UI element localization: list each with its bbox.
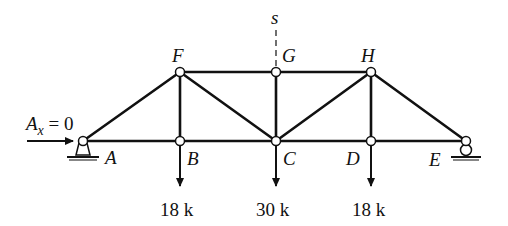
truss-joints: [79, 68, 471, 146]
member-A-F: [83, 72, 180, 141]
node-label-F: F: [171, 45, 184, 66]
joint-A: [79, 137, 88, 146]
node-label-C: C: [283, 148, 296, 169]
load-label-B: 18 k: [160, 199, 194, 220]
reaction-label: Ax = 0: [24, 113, 74, 138]
roller-support-E: [451, 145, 481, 161]
truss-members: [83, 72, 466, 141]
load-label-C: 30 k: [256, 199, 290, 220]
truss-diagram: s 18 k 30 k 18 k Ax = 0 A B C D E F: [0, 0, 508, 226]
load-arrows: [180, 146, 371, 186]
node-label-H: H: [360, 45, 376, 66]
joint-D: [367, 137, 376, 146]
section-cut-label: s: [271, 7, 278, 28]
member-C-H: [276, 72, 371, 141]
joint-F: [176, 68, 185, 77]
joint-E: [462, 137, 471, 146]
member-F-C: [180, 72, 276, 141]
load-label-D: 18 k: [352, 199, 386, 220]
reaction-label-main: A: [24, 113, 38, 134]
node-label-B: B: [187, 148, 199, 169]
node-label-G: G: [282, 45, 296, 66]
node-label-A: A: [103, 147, 117, 168]
joint-G: [272, 68, 281, 77]
node-label-D: D: [345, 148, 360, 169]
joint-H: [367, 68, 376, 77]
member-H-E: [371, 72, 466, 141]
joint-B: [176, 137, 185, 146]
reaction-label-rest: = 0: [44, 113, 74, 134]
joint-C: [272, 137, 281, 146]
node-label-E: E: [428, 149, 441, 170]
